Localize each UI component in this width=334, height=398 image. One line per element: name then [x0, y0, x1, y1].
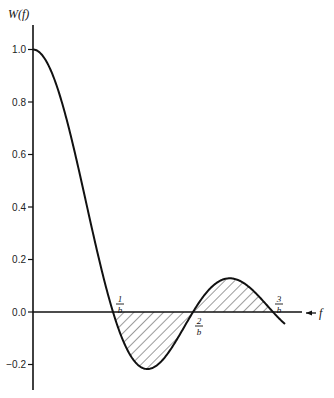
y-tick-label: 1.0 — [12, 44, 26, 55]
y-tick-label: 0.6 — [12, 149, 26, 160]
hatched-area — [113, 312, 193, 369]
svg-text:3: 3 — [276, 294, 282, 304]
y-tick-label: 0.2 — [12, 254, 26, 265]
svg-text:b: b — [197, 327, 202, 337]
y-tick-label: 0.4 — [12, 202, 26, 213]
y-tick-label: 0.8 — [12, 97, 26, 108]
svg-text:b: b — [277, 305, 282, 315]
x-tick-label: 2b — [195, 316, 203, 337]
chart: 1.00.80.60.40.20.0−0.2 1b2b3b W(f) f — [0, 0, 334, 398]
svg-text:1: 1 — [118, 294, 123, 304]
y-tick-label: −0.2 — [6, 359, 26, 370]
x-axis-arrow-icon — [306, 311, 316, 316]
y-ticks: 1.00.80.60.40.20.0−0.2 — [6, 44, 33, 370]
svg-text:2: 2 — [197, 316, 202, 326]
x-axis-label: f — [319, 306, 324, 320]
shaded-region — [113, 278, 273, 369]
y-axis-label: W(f) — [8, 7, 29, 21]
svg-text:b: b — [118, 305, 123, 315]
y-tick-label: 0.0 — [12, 307, 26, 318]
